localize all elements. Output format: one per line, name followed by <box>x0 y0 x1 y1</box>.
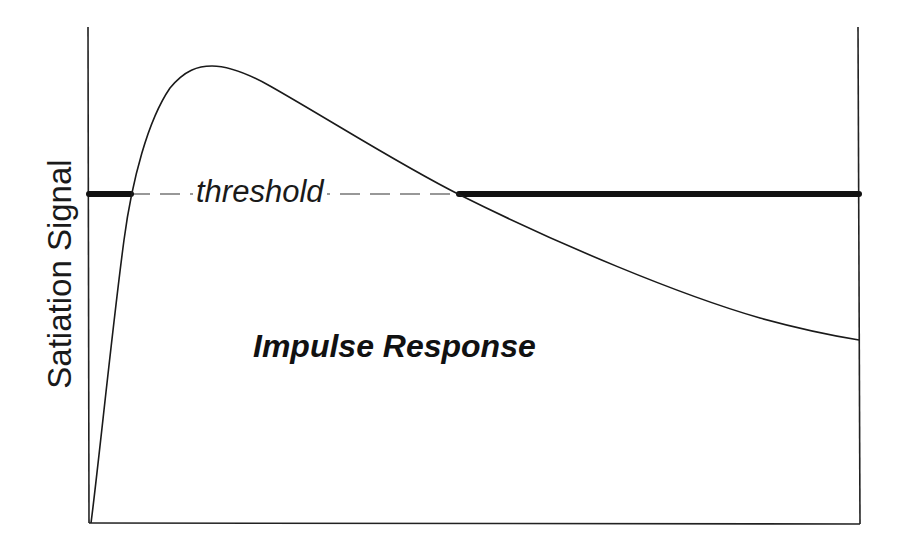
y-axis-left <box>88 27 89 523</box>
impulse-response-curve <box>91 66 859 523</box>
x-axis <box>89 523 860 524</box>
impulse-response-annotation: Impulse Response <box>253 328 536 365</box>
y-axis-right <box>858 27 860 524</box>
chart-plot-area <box>0 0 907 549</box>
threshold-label: threshold <box>193 172 327 212</box>
y-axis-label: Satiation Signal <box>41 159 79 388</box>
